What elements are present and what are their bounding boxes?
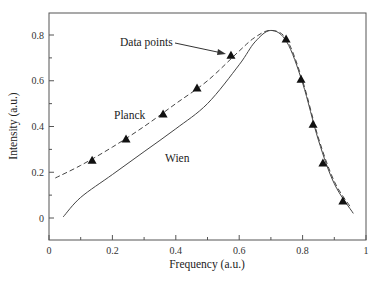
- arrowhead-icon: [217, 49, 226, 55]
- y-tick-label: 0.4: [32, 121, 45, 132]
- plot-frame: [49, 13, 366, 240]
- x-tick-label: 0.4: [170, 245, 183, 256]
- x-tick-label: 0: [47, 245, 52, 256]
- x-axis-title: Frequency (a.u.): [169, 258, 245, 271]
- series-group: [55, 30, 353, 216]
- y-axis-title: Intensity (a.u.): [7, 92, 20, 160]
- annotation-planck: Planck: [114, 109, 146, 121]
- planck-curve: [55, 30, 350, 206]
- wien-curve: [63, 30, 353, 216]
- data-point-triangle: [297, 75, 306, 83]
- y-axis-ticks: 00.20.40.60.8: [32, 30, 55, 224]
- y-tick-label: 0.8: [32, 30, 45, 41]
- annotation-arrow: [175, 43, 222, 53]
- annotation-data-points: Data points: [120, 36, 173, 49]
- x-tick-label: 0.8: [296, 245, 309, 256]
- data-point-triangle: [193, 84, 202, 92]
- data-point-triangle: [282, 35, 291, 43]
- data-point-triangle: [338, 197, 347, 205]
- x-tick-label: 0.2: [106, 245, 119, 256]
- chart: 00.20.40.60.81 00.20.40.60.8 Frequency (…: [0, 0, 383, 281]
- y-tick-label: 0.2: [32, 167, 45, 178]
- data-point-triangle: [88, 156, 97, 164]
- annotation-wien: Wien: [165, 152, 190, 164]
- y-tick-label: 0.6: [32, 75, 45, 86]
- annotations: Data pointsPlanckWien: [114, 36, 226, 164]
- data-point-triangle: [122, 135, 131, 143]
- data-point-triangle: [309, 120, 318, 128]
- x-tick-label: 1: [364, 245, 369, 256]
- y-tick-label: 0: [39, 213, 44, 224]
- x-tick-label: 0.6: [233, 245, 246, 256]
- data-point-triangle: [226, 51, 235, 59]
- x-axis-ticks: 00.20.40.60.81: [47, 235, 369, 256]
